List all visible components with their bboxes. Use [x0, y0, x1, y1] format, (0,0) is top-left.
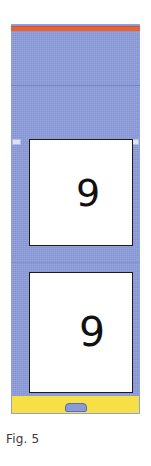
- upper-seam-line: [11, 85, 140, 86]
- left-corner-tab: [12, 139, 21, 145]
- figure-caption: Fig. 5: [6, 432, 39, 446]
- lower-display-value: 9: [30, 273, 132, 392]
- upper-display-panel: 9: [29, 139, 133, 246]
- lower-display-panel: 9: [29, 272, 133, 393]
- top-strip: [11, 26, 140, 31]
- bottom-button[interactable]: [65, 403, 87, 412]
- figure-5: 9 9 Fig. 5: [0, 0, 151, 466]
- upper-display-value: 9: [30, 140, 132, 245]
- lower-seam-line: [11, 262, 140, 263]
